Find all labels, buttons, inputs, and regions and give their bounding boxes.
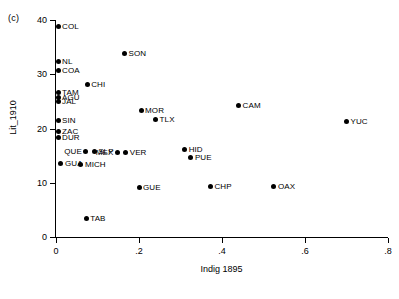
data-point [182, 147, 187, 152]
y-tick-label: 0 [21, 232, 47, 242]
data-point-label: GUE [143, 183, 161, 192]
y-tick-mark [50, 129, 55, 130]
data-point [56, 135, 61, 140]
y-axis-title: Lit_1910 [8, 78, 19, 158]
data-point-label: TLX [160, 115, 175, 124]
data-point [122, 51, 127, 56]
x-tick-mark [305, 238, 306, 243]
data-point-label: CAM [243, 101, 261, 110]
data-point-label: COL [62, 22, 79, 31]
y-tick-mark [50, 74, 55, 75]
data-point [84, 216, 89, 221]
data-point [56, 118, 61, 123]
data-point-label: COA [62, 66, 80, 75]
data-point [271, 184, 276, 189]
y-tick-mark [50, 20, 55, 21]
y-tick-label: 20 [21, 124, 47, 134]
data-point-label: VER [130, 148, 147, 157]
data-point [236, 103, 241, 108]
y-tick-label: 10 [21, 178, 47, 188]
data-point-label: SON [128, 49, 146, 58]
data-point [115, 150, 120, 155]
data-point-label: YUC [351, 117, 368, 126]
data-point [188, 155, 193, 160]
data-point-label: HID [189, 145, 203, 154]
scatter-plot-figure: (c) 010203040 0.2.4.6.8 COLNLCOASONCHITA… [0, 0, 399, 299]
data-point-label: MICH [85, 160, 106, 169]
data-point [56, 99, 61, 104]
data-point [56, 129, 61, 134]
x-tick-mark [388, 238, 389, 243]
x-tick-label: .2 [124, 246, 154, 256]
x-tick-mark [139, 238, 140, 243]
y-tick-mark [50, 237, 55, 238]
y-tick-mark [50, 183, 55, 184]
data-point [344, 119, 349, 124]
data-point [137, 185, 142, 190]
x-tick-label: .4 [207, 246, 237, 256]
panel-label: (c) [8, 13, 19, 23]
data-point [56, 24, 61, 29]
x-tick-mark [222, 238, 223, 243]
data-point-label: MEX [56, 148, 113, 157]
data-point-label: MOR [145, 106, 164, 115]
data-point [56, 59, 61, 64]
data-point [56, 68, 61, 73]
data-point-label: TAB [90, 214, 105, 223]
data-point-label: JAL [62, 97, 76, 106]
x-tick-mark [56, 238, 57, 243]
data-point-label: CHP [214, 182, 231, 191]
data-point-label: NL [62, 57, 72, 66]
x-tick-label: .6 [290, 246, 320, 256]
data-point-label: DUR [62, 133, 80, 142]
data-point [153, 117, 158, 122]
data-point-label: SIN [62, 116, 76, 125]
data-point [58, 161, 63, 166]
data-point-label: CHI [91, 80, 105, 89]
data-point-label: PUE [195, 153, 212, 162]
data-point [139, 108, 144, 113]
x-tick-label: 0 [41, 246, 71, 256]
y-tick-label: 30 [21, 69, 47, 79]
plot-area: COLNLCOASONCHITAMAGUJALMORTLXCAMYUCSINZA… [56, 20, 388, 237]
data-point-label: OAX [278, 182, 295, 191]
data-point [123, 150, 128, 155]
data-point [208, 184, 213, 189]
data-point [85, 82, 90, 87]
y-tick-label: 40 [21, 15, 47, 25]
x-tick-label: .8 [373, 246, 399, 256]
x-axis-title: Indig 1895 [55, 264, 388, 275]
